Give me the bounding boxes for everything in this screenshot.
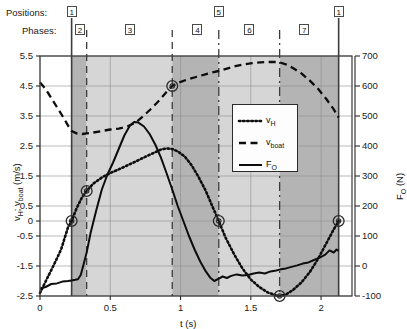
xtick-label: 1.5 (231, 303, 271, 313)
ytick-label-right: 500 (362, 111, 378, 121)
x-axis-title: t (s) (180, 318, 196, 329)
phase-marker-4: 4 (192, 24, 202, 35)
phase-marker-6: 6 (244, 24, 254, 35)
ytick-label-left: 3.5 (0, 111, 33, 121)
xtick-label: 0 (20, 303, 60, 313)
xtick-label: 1 (161, 303, 201, 313)
ytick-label-right: 200 (362, 201, 378, 211)
ytick-label-right: -100 (362, 291, 381, 301)
legend-label-v_boat: vboat (266, 137, 284, 149)
ytick-label-left: 4.5 (0, 81, 33, 91)
ytick-label-left: 5.5 (0, 51, 33, 61)
phase-marker-3: 3 (125, 24, 135, 35)
ytick-label-left: -1.5 (0, 261, 33, 271)
ytick-label-right: 100 (362, 231, 378, 241)
ytick-label-right: 300 (362, 171, 378, 181)
xtick-label: 0.5 (90, 303, 130, 313)
ytick-label-right: 400 (362, 141, 378, 151)
ytick-label-right: 600 (362, 81, 378, 91)
ytick-label-right: 700 (362, 51, 378, 61)
legend-box (232, 104, 298, 172)
ytick-label-left: -0.5 (0, 231, 33, 241)
position-marker-1: 1 (67, 6, 77, 17)
phase-marker-2: 2 (75, 24, 85, 35)
ytick-label-right: 0 (362, 261, 367, 271)
phases-label: Phases: (22, 26, 56, 36)
ytick-label-left: 2.5 (0, 141, 33, 151)
phase-marker-7: 7 (299, 24, 309, 35)
ytick-label-left: -2.5 (0, 291, 33, 301)
xtick-label: 2 (301, 303, 341, 313)
legend-label-v_H: vH (266, 115, 276, 127)
y-axis-title-left: vH; vboat (m/s) (11, 163, 24, 221)
position-marker-5: 5 (214, 6, 224, 17)
y-axis-title-right: FO (N) (394, 173, 407, 200)
legend-label-F_O: FO (266, 159, 277, 171)
position-marker-1: 1 (334, 6, 344, 17)
positions-label: Positions: (6, 8, 47, 18)
